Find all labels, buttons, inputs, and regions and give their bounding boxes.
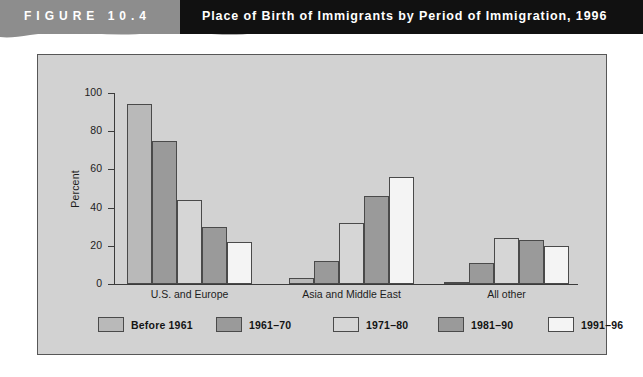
bar xyxy=(127,104,152,284)
legend-swatch xyxy=(216,317,242,332)
legend-swatch xyxy=(333,317,359,332)
legend-item: 1981–90 xyxy=(438,317,513,332)
figure-panel: Percent 020406080100 U.S. and EuropeAsia… xyxy=(37,54,607,355)
x-axis-line xyxy=(114,284,578,285)
x-axis-label: All other xyxy=(414,288,599,300)
bar xyxy=(544,246,569,284)
legend-swatch xyxy=(438,317,464,332)
y-tick-label: 40 xyxy=(38,201,102,213)
figure-number-label: FIGURE 10.4 xyxy=(24,9,151,23)
bar-group xyxy=(444,93,569,284)
legend-label: Before 1961 xyxy=(131,319,193,331)
y-tick-label: 0 xyxy=(38,277,102,289)
y-axis-title: Percent xyxy=(69,144,81,234)
legend-item: Before 1961 xyxy=(98,317,193,332)
bar xyxy=(389,177,414,284)
bar xyxy=(289,278,314,284)
chart-legend: Before 19611961–701971–801981–901991–96 xyxy=(98,317,598,339)
bar xyxy=(444,282,469,284)
legend-label: 1981–90 xyxy=(471,319,513,331)
y-tick-label: 60 xyxy=(38,162,102,174)
bar xyxy=(152,141,177,284)
bar-groups xyxy=(114,93,578,284)
figure-header: FIGURE 10.4 Place of Birth of Immigrants… xyxy=(0,0,643,42)
bar xyxy=(494,238,519,284)
figure-title: Place of Birth of Immigrants by Period o… xyxy=(202,9,607,23)
bar xyxy=(469,263,494,284)
x-axis-label: U.S. and Europe xyxy=(97,288,282,300)
legend-swatch xyxy=(98,317,124,332)
bar-group xyxy=(289,93,414,284)
legend-item: 1991–96 xyxy=(548,317,623,332)
bar-group xyxy=(127,93,252,284)
bar xyxy=(227,242,252,284)
legend-swatch xyxy=(548,317,574,332)
bar xyxy=(177,200,202,284)
legend-item: 1971–80 xyxy=(333,317,408,332)
legend-label: 1991–96 xyxy=(581,319,623,331)
legend-label: 1961–70 xyxy=(249,319,291,331)
bar-chart: Percent 020406080100 U.S. and EuropeAsia… xyxy=(38,55,608,356)
y-tick-label: 20 xyxy=(38,239,102,251)
bar xyxy=(202,227,227,284)
legend-item: 1961–70 xyxy=(216,317,291,332)
legend-label: 1971–80 xyxy=(366,319,408,331)
bar xyxy=(519,240,544,284)
y-tick-label: 100 xyxy=(38,86,102,98)
bar xyxy=(314,261,339,284)
bar xyxy=(339,223,364,284)
bar xyxy=(364,196,389,284)
y-tick-label: 80 xyxy=(38,124,102,136)
